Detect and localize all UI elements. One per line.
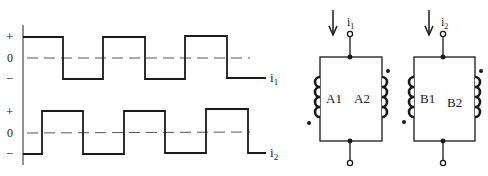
current-label-i1: i1 [347,15,354,31]
zero-label: 0 [7,126,13,140]
plus-label: + [6,104,13,119]
minus-label: − [6,71,13,86]
minus-label: − [6,146,13,161]
coil-label-a1: A1 [326,91,342,106]
coil-b2-icon [475,77,480,117]
coil-a2-icon [382,77,387,117]
waveform-i1: + 0 − i1 [6,29,278,87]
circuit-b [402,10,483,166]
i2-label: i2 [270,145,278,162]
zero-dashed-line [27,132,250,133]
waveform-i2: + 0 − i2 [6,104,278,162]
current-label-i2: i2 [441,15,448,31]
polarity-dot [386,69,390,73]
polarity-dot [402,120,406,124]
coil-a1-icon [315,77,320,117]
bottom-terminal [347,160,352,165]
zero-label: 0 [7,51,13,65]
coil-label-a2: A2 [354,91,370,106]
coil-label-b1: B1 [420,91,435,106]
polarity-dot [307,121,311,125]
top-terminal [347,31,352,36]
coil-b1-icon [409,77,414,117]
polarity-dot [479,69,483,73]
plus-label: + [6,29,13,44]
coil-label-b2: B2 [447,95,462,110]
circuit-a [307,10,390,166]
diagram-canvas: + 0 − i1 + 0 − i2 i1 A1 A2 [0,0,488,176]
i1-label: i1 [270,70,278,87]
